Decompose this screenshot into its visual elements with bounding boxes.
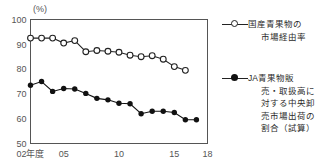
data-point-filled-circle	[50, 89, 55, 94]
legend-entry-ja-share[interactable]: JA青果物販 売・取扱高に 対する中央卸 売市場出荷の 割合（試算）	[222, 72, 315, 135]
chart-legend: 国産青果物の 市場経由率 JA青果物販 売・取扱高に 対する中央卸 売市場出荷の…	[222, 0, 318, 168]
legend-line: 売・取扱高に	[248, 85, 315, 98]
data-point-filled-circle	[161, 109, 166, 114]
data-point-filled-circle	[127, 101, 132, 106]
x-tick-label: 05	[59, 149, 69, 159]
data-point-filled-circle	[183, 117, 188, 122]
data-point-filled-circle	[72, 86, 77, 91]
data-point-filled-circle	[83, 91, 88, 96]
data-point-open-circle	[28, 35, 34, 41]
y-tick-label: 50	[16, 139, 26, 149]
data-point-filled-circle	[138, 111, 143, 116]
data-point-filled-circle	[116, 101, 121, 106]
legend-line: 割合（試算）	[248, 122, 315, 135]
legend-marker-filled-circle-icon	[222, 72, 248, 85]
data-point-open-circle	[138, 54, 144, 60]
legend-entry-domestic-rate[interactable]: 国産青果物の 市場経由率	[222, 18, 306, 43]
legend-line: 国産青果物の	[248, 18, 306, 31]
plot-frame	[31, 20, 208, 144]
y-tick-label: 60	[16, 114, 26, 124]
data-point-filled-circle	[94, 96, 99, 101]
data-point-open-circle	[127, 52, 133, 58]
data-point-open-circle	[149, 53, 155, 59]
x-tick-label: 10	[114, 149, 124, 159]
x-tick-label: 02年度	[16, 148, 44, 159]
data-point-open-circle	[83, 49, 89, 55]
x-tick-label: 18	[202, 149, 212, 159]
data-point-filled-circle	[105, 97, 110, 102]
legend-label-domestic-rate: 国産青果物の 市場経由率	[248, 18, 306, 43]
data-point-filled-circle	[172, 110, 177, 115]
data-point-filled-circle	[28, 83, 33, 88]
data-point-open-circle	[39, 35, 45, 41]
data-point-open-circle	[72, 38, 78, 44]
data-point-open-circle	[105, 48, 111, 54]
x-axis-ticks: 02年度05101518	[16, 148, 212, 159]
legend-label-ja-share: JA青果物販 売・取扱高に 対する中央卸 売市場出荷の 割合（試算）	[248, 72, 315, 135]
y-tick-label: 90	[16, 40, 26, 50]
data-point-open-circle	[116, 49, 122, 55]
legend-line: 対する中央卸	[248, 97, 315, 110]
legend-line: 市場経由率	[248, 31, 306, 44]
y-tick-label: 70	[16, 89, 26, 99]
legend-marker-open-circle-icon	[222, 18, 248, 31]
chart-container: (%) 5060708090100 02年度05101518 国産青果物の 市場…	[0, 0, 318, 168]
data-point-filled-circle	[194, 117, 199, 122]
data-point-open-circle	[94, 48, 100, 54]
data-point-filled-circle	[149, 109, 154, 114]
data-point-open-circle	[50, 35, 56, 41]
legend-line: JA青果物販	[248, 72, 315, 85]
y-tick-label: 80	[16, 64, 26, 74]
legend-line: 売市場出荷の	[248, 110, 315, 123]
data-point-open-circle	[160, 56, 166, 62]
y-axis-ticks: 5060708090100	[11, 15, 26, 149]
y-tick-label: 100	[11, 15, 26, 25]
data-point-filled-circle	[61, 86, 66, 91]
data-point-open-circle	[171, 64, 177, 70]
data-point-open-circle	[182, 67, 188, 73]
x-tick-label: 15	[169, 149, 179, 159]
data-point-filled-circle	[39, 79, 44, 84]
data-point-open-circle	[61, 40, 67, 46]
